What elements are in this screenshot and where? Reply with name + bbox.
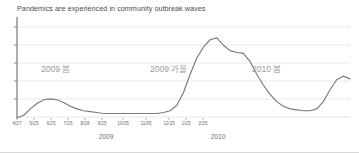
x-tick-label: 1/25 [182, 121, 191, 127]
x-tick-label: 5/25 [30, 121, 39, 127]
x-tick-label: 7/25 [64, 121, 73, 127]
annotation-2009-spring: 2009 봄 [41, 64, 70, 75]
x-tick-label: 6/25 [47, 121, 56, 127]
x-tick-label: 2/25 [199, 121, 208, 127]
x-tick-label: 8/28 [81, 121, 90, 127]
x-tick-label: 9/25 [98, 121, 107, 127]
x-year-label: 2009 [99, 133, 114, 141]
annotation-2009-autumn: 2009 가을 [150, 64, 187, 75]
x-year-label: 2010 [211, 133, 226, 141]
x-tick-label: 11/05 [140, 121, 151, 127]
chart-plot-area [0, 0, 359, 153]
chart-figure: Pandemics are experienced in community o… [0, 0, 359, 153]
y-axis [14, 17, 17, 118]
outbreak-wave-line [17, 38, 350, 118]
x-tick-label: 4/27 [13, 121, 22, 127]
x-axis-ticks [17, 118, 203, 120]
x-tick-label: 10/05 [117, 121, 129, 127]
x-tick-label: 12/25 [163, 121, 175, 127]
annotation-2010-spring: 2010 봄 [252, 64, 281, 75]
